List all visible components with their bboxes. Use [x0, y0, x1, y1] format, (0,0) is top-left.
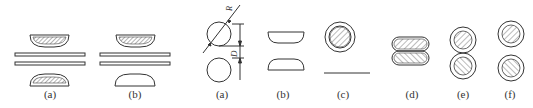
left-panel-b-drawing — [100, 35, 170, 86]
diagram-canvas: R D — [0, 0, 533, 108]
right-panel-a-drawing — [203, 5, 244, 82]
right-panel-f-drawing — [498, 21, 524, 81]
right-caption-e: (e) — [457, 88, 469, 100]
left-panel-a-drawing — [15, 35, 85, 86]
right-panel-e-drawing — [450, 27, 476, 79]
right-caption-a: (a) — [216, 88, 228, 100]
right-caption-b: (b) — [277, 88, 290, 100]
right-panel-d-drawing — [392, 37, 429, 65]
right-panel-c-drawing — [324, 22, 370, 73]
left-caption-b: (b) — [129, 88, 142, 100]
right-caption-c: (c) — [337, 88, 349, 100]
right-panel-b-drawing — [268, 32, 304, 70]
right-caption-f: (f) — [505, 88, 516, 100]
dimension-label-d: D — [229, 50, 239, 58]
left-caption-a: (a) — [44, 88, 56, 100]
right-caption-d: (d) — [406, 88, 419, 100]
dimension-label-r: R — [225, 6, 234, 12]
